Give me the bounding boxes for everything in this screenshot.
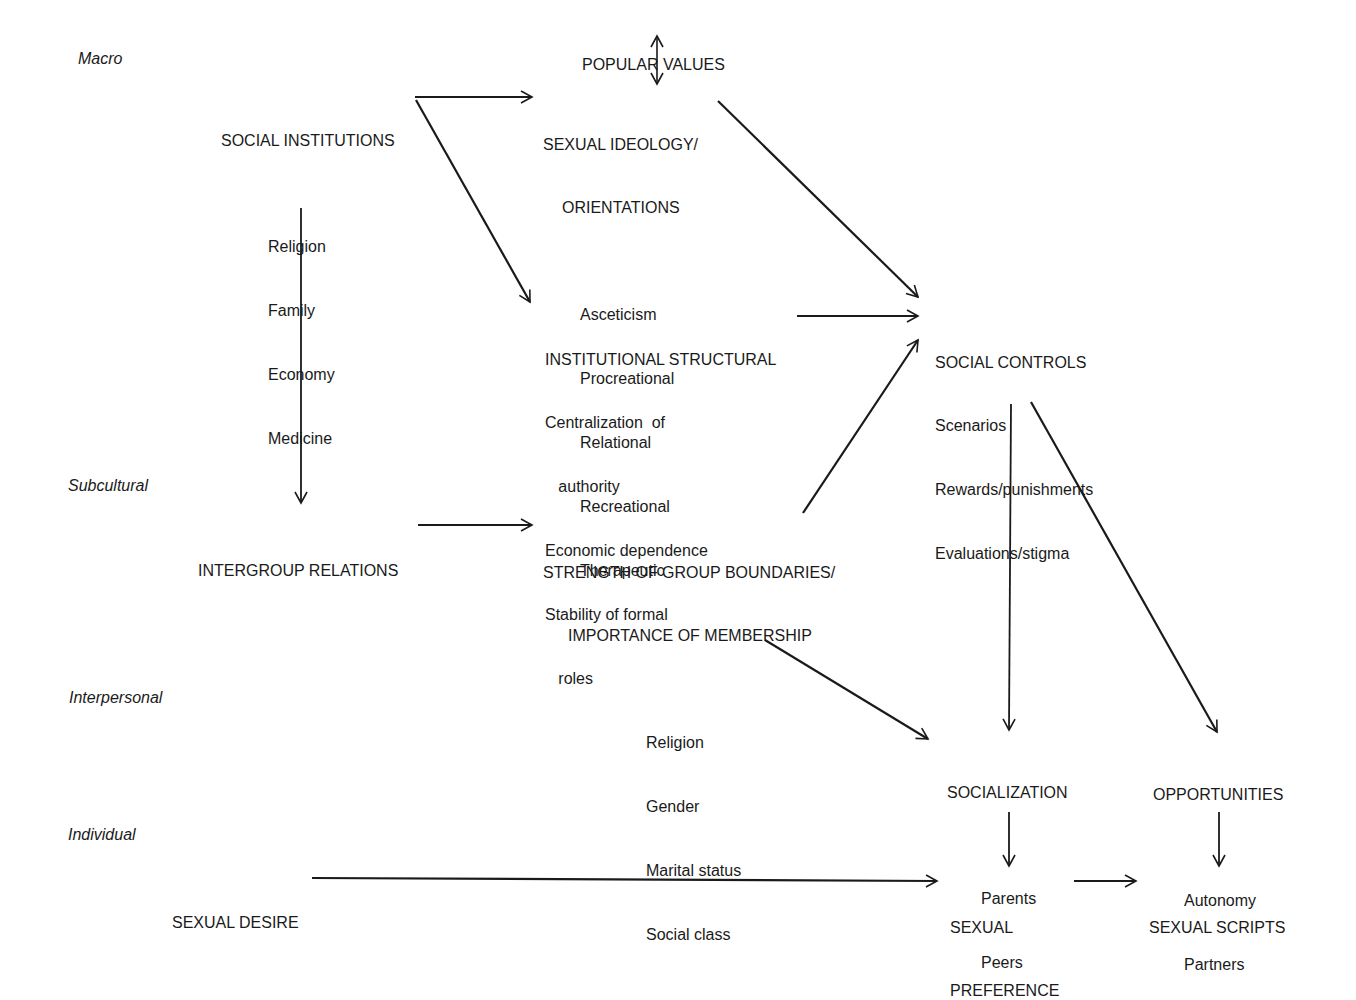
node-item: Religion	[646, 732, 835, 753]
node-popular-values: POPULAR VALUES	[582, 11, 725, 96]
node-item: Social class	[646, 924, 835, 945]
node-item: authority	[545, 476, 776, 497]
node-item: Family	[268, 300, 395, 321]
level-label-individual: Individual	[68, 826, 136, 844]
node-title: OPPORTUNITIES	[1153, 784, 1283, 805]
arrow-ideology-controls	[718, 101, 918, 297]
node-title: PREFERENCE	[950, 980, 1059, 1000]
node-opportunities: OPPORTUNITIES Autonomy Partners	[1153, 741, 1283, 1000]
node-title: SEXUAL	[950, 917, 1059, 938]
node-sexual-preference: SEXUAL PREFERENCE	[950, 874, 1059, 1000]
level-label-interpersonal: Interpersonal	[69, 689, 162, 707]
node-intergroup-relations: INTERGROUP RELATIONS	[198, 517, 398, 602]
node-title: INTERGROUP RELATIONS	[198, 560, 398, 581]
node-title: ORIENTATIONS	[543, 197, 698, 218]
level-label-subcultural: Subcultural	[68, 477, 148, 495]
node-title: SEXUAL SCRIPTS	[1149, 917, 1285, 938]
node-title: POPULAR VALUES	[582, 54, 725, 75]
node-item: Medicine	[268, 428, 395, 449]
node-title: INSTITUTIONAL STRUCTURAL	[545, 349, 776, 370]
node-title: STRENGTH OF GROUP BOUNDARIES/	[543, 562, 835, 583]
node-item: Religion	[268, 236, 395, 257]
node-sexual-scripts: SEXUAL SCRIPTS	[1149, 874, 1285, 959]
node-item: Marital status	[646, 860, 835, 881]
node-title: SOCIAL CONTROLS	[935, 352, 1093, 373]
node-title: SOCIALIZATION	[947, 782, 1068, 803]
node-item: Gender	[646, 796, 835, 817]
node-title: IMPORTANCE OF MEMBERSHIP	[543, 625, 835, 646]
node-social-institutions: SOCIAL INSTITUTIONS Religion Family Econ…	[221, 87, 395, 513]
arrow-institutions-structural	[416, 100, 530, 302]
level-label-macro: Macro	[78, 50, 122, 68]
node-title: SOCIAL INSTITUTIONS	[221, 130, 395, 151]
node-item: Rewards/punishments	[935, 479, 1093, 500]
node-item: Evaluations/stigma	[935, 543, 1093, 564]
node-item: Centralization of	[545, 412, 776, 433]
node-title: SEXUAL IDEOLOGY/	[543, 134, 698, 155]
node-item: Scenarios	[935, 415, 1093, 436]
arrow-boundaries-controls	[803, 340, 918, 513]
node-sexual-desire: SEXUAL DESIRE	[172, 869, 299, 954]
node-item: Economy	[268, 364, 395, 385]
node-title: SEXUAL DESIRE	[172, 912, 299, 933]
node-group-boundaries: STRENGTH OF GROUP BOUNDARIES/ IMPORTANCE…	[543, 519, 835, 1000]
node-social-controls: SOCIAL CONTROLS Scenarios Rewards/punish…	[935, 309, 1093, 586]
